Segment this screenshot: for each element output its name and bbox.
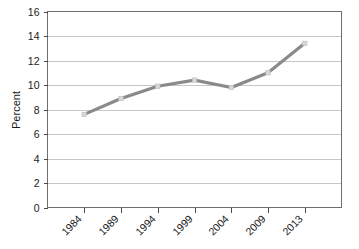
data-point-marker — [119, 96, 123, 100]
data-point-marker — [266, 71, 270, 75]
y-axis-tick-label: 14 — [28, 30, 40, 42]
y-axis-tick-label: 16 — [28, 6, 40, 18]
line-chart: 0246810121416 19841989199419992004200920… — [0, 0, 359, 249]
data-point-marker — [156, 84, 160, 88]
y-axis-tick-label: 6 — [34, 128, 40, 140]
data-point-marker — [229, 85, 233, 89]
chart-canvas: 0246810121416 19841989199419992004200920… — [0, 0, 359, 249]
y-axis-tick-label: 0 — [34, 202, 40, 214]
data-point-marker — [192, 78, 196, 82]
y-axis-title: Percent — [10, 91, 22, 129]
data-point-marker — [303, 41, 307, 45]
y-axis-tick-label: 10 — [28, 79, 40, 91]
y-axis-tick-label: 4 — [34, 153, 40, 165]
y-axis-tick-label: 12 — [28, 55, 40, 67]
y-axis-tick-label: 8 — [34, 104, 40, 116]
y-axis-tick-label: 2 — [34, 177, 40, 189]
data-point-marker — [82, 112, 86, 116]
